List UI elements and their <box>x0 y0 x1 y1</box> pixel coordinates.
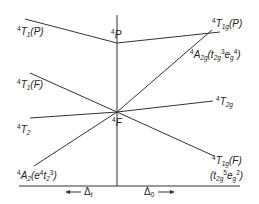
label-4T1-F: 4T1(F) <box>17 79 43 92</box>
label-config-sub: 2 <box>46 175 50 182</box>
label-rest: (P) <box>30 26 43 37</box>
label-4F: 4F <box>112 117 122 128</box>
label-sub: 2g <box>226 101 233 108</box>
label-main: P <box>115 29 122 40</box>
label-delta-t: Δt <box>84 187 93 199</box>
label-delta-0: Δ0 <box>144 187 154 199</box>
label-4T2: 4T2 <box>17 124 30 137</box>
label-rest: (P) <box>229 18 242 29</box>
label-rest: (F) <box>229 155 242 166</box>
label-config-open: (e <box>31 170 40 181</box>
delta-sub: t <box>91 191 93 198</box>
label-config-close: ) <box>240 170 243 181</box>
label-sub: 1g <box>222 160 229 167</box>
label-config-sub2: g <box>230 54 234 61</box>
label-4T1g-F-config: (t2g5eg2) <box>210 170 243 183</box>
label-config-close: ) <box>237 49 240 60</box>
line-4T1g-F <box>117 112 214 156</box>
label-rest: (F) <box>30 79 43 90</box>
left-arrow-head-icon <box>65 190 70 194</box>
delta-sub: 0 <box>151 191 155 198</box>
line-4A2g <box>117 30 212 112</box>
label-sub: 1g <box>222 23 229 30</box>
label-config-sub2: g <box>233 175 237 182</box>
right-arrow-head-icon <box>170 190 175 194</box>
label-4A2g: 4A2g(t2g3eg4) <box>190 49 241 62</box>
delta-symbol: Δ <box>84 186 91 197</box>
label-4T2g: 4T2g <box>216 96 233 109</box>
label-config-sub: 2g <box>216 175 223 182</box>
line-4T2 <box>30 112 117 118</box>
line-4A2 <box>34 112 117 166</box>
label-4A2: 4A2(e4t23) <box>17 170 57 183</box>
label-4T1g-P: 4T1g(P) <box>212 18 242 31</box>
line-4T2g <box>117 101 213 112</box>
label-sub: 2 <box>27 129 31 136</box>
label-sub: 2g <box>200 54 207 61</box>
label-main: F <box>116 117 122 128</box>
label-4P: 4P <box>111 29 121 40</box>
label-4T1-P: 4T1(P) <box>17 26 44 39</box>
label-config-sub: 2g <box>214 54 221 61</box>
label-4T1g-F: 4T1g(F) <box>212 155 242 168</box>
label-config-close: ) <box>53 170 56 181</box>
delta-symbol: Δ <box>144 186 151 197</box>
line-4T1g-P <box>117 32 220 43</box>
